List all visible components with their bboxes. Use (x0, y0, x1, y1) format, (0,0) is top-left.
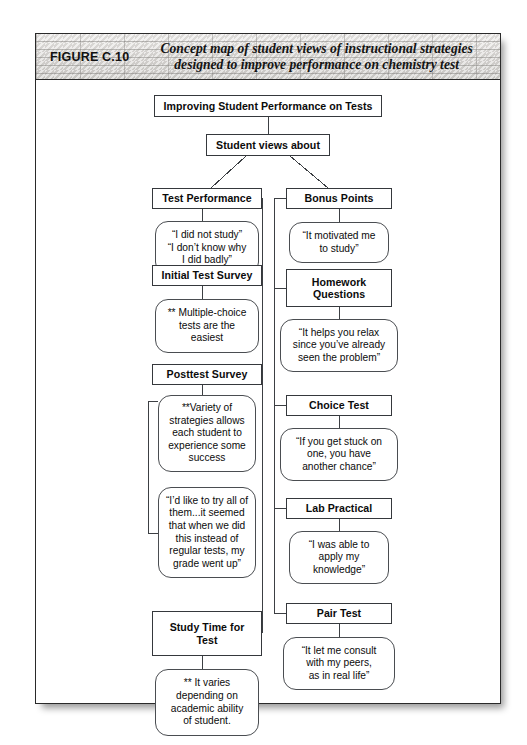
node-pair-test[interactable]: Pair Test (286, 603, 392, 624)
figure-caption-line-2: designed to improve performance on chemi… (143, 57, 490, 73)
quote-pair-test[interactable]: “It let me consult with my peers, as in … (283, 637, 395, 690)
connector-lines (36, 81, 500, 703)
quote-line: strategies allows (169, 415, 244, 428)
quote-line: to study” (319, 243, 358, 256)
quote-line: “I was able to (309, 539, 370, 552)
node-root-label: Improving Student Performance on Tests (160, 100, 377, 113)
node-test-performance[interactable]: Test Performance (152, 188, 262, 209)
quote-initial-test-survey[interactable]: ** Multiple-choice tests are the easiest (155, 299, 259, 353)
quote-line: experience some (168, 440, 246, 453)
quote-line: ** It varies (184, 677, 230, 690)
node-bonus-points[interactable]: Bonus Points (286, 188, 392, 209)
quote-line: with my peers, (306, 657, 372, 670)
node-pair-test-label: Pair Test (313, 607, 365, 620)
quote-line: “It helps you relax (299, 327, 379, 340)
quote-line: “If you get stuck on (296, 436, 382, 449)
quote-line: of student. (183, 715, 231, 728)
quote-line: one, you have (307, 448, 371, 461)
node-posttest-survey[interactable]: Posttest Survey (152, 364, 262, 385)
quote-line: grade went up” (173, 558, 241, 571)
quote-line: depending on (176, 690, 238, 703)
quote-posttest-survey-2[interactable]: “I’d like to try all of them...it seemed… (158, 487, 256, 578)
quote-line: success (189, 452, 226, 465)
node-homework-questions-label-2: Questions (313, 288, 365, 301)
node-choice-test-label: Choice Test (305, 399, 373, 412)
quote-line: that when we did (169, 520, 245, 533)
quote-line: “It motivated me (302, 230, 375, 243)
quote-line: seen the problem” (298, 352, 380, 365)
quote-line: each student to (172, 427, 242, 440)
node-lab-practical-label: Lab Practical (302, 502, 377, 515)
quote-choice-test[interactable]: “If you get stuck on one, you have anoth… (280, 428, 398, 481)
node-choice-test[interactable]: Choice Test (286, 395, 392, 416)
figure-caption: Concept map of student views of instruct… (143, 41, 500, 73)
quote-line: academic ability (171, 703, 243, 716)
quote-bonus-points[interactable]: “It motivated me to study” (289, 222, 389, 263)
quote-line: “It let me consult (302, 645, 377, 658)
figure-label: FIGURE C.10 (50, 49, 129, 64)
node-test-performance-label: Test Performance (158, 192, 256, 205)
node-initial-test-survey-label: Initial Test Survey (158, 269, 257, 282)
quote-line: “I’d like to try all of (166, 495, 248, 508)
quote-line: ** Multiple-choice (168, 307, 247, 320)
node-hub[interactable]: Student views about (206, 134, 330, 156)
concept-map-canvas: Improving Student Performance on Tests S… (36, 81, 500, 703)
quote-study-time[interactable]: ** It varies depending on academic abili… (155, 669, 259, 736)
quote-line: since you’ve already (293, 339, 385, 352)
quote-line: easiest (191, 332, 223, 345)
quote-posttest-survey-1[interactable]: **Variety of strategies allows each stud… (158, 395, 256, 472)
quote-line: another chance” (302, 461, 376, 474)
quote-line: tests are the (179, 320, 235, 333)
quote-line: this instead of (176, 533, 239, 546)
figure-header: FIGURE C.10 Concept map of student views… (35, 33, 501, 80)
quote-homework-questions[interactable]: “It helps you relax since you’ve already… (280, 319, 398, 372)
node-study-time-for-test-label-2: Test (196, 634, 217, 647)
quote-line: them...it seemed (169, 507, 244, 520)
quote-line: apply my (319, 551, 360, 564)
node-root[interactable]: Improving Student Performance on Tests (154, 95, 382, 117)
node-hub-label: Student views about (212, 139, 324, 152)
quote-line: “I did not study” (172, 229, 242, 242)
quote-line: knowledge” (313, 564, 365, 577)
quote-lab-practical[interactable]: “I was able to apply my knowledge” (289, 531, 389, 584)
node-posttest-survey-label: Posttest Survey (163, 368, 252, 381)
node-homework-questions[interactable]: Homework Questions (286, 269, 392, 307)
node-initial-test-survey[interactable]: Initial Test Survey (152, 265, 262, 286)
quote-line: as in real life” (309, 670, 370, 683)
node-study-time-for-test-label: Study Time for (170, 621, 245, 634)
node-lab-practical[interactable]: Lab Practical (286, 498, 392, 519)
node-study-time-for-test[interactable]: Study Time for Test (152, 611, 262, 656)
quote-line: regular tests, my (169, 545, 244, 558)
quote-line: **Variety of (182, 402, 232, 415)
node-homework-questions-label: Homework (312, 276, 367, 289)
node-bonus-points-label: Bonus Points (301, 192, 378, 205)
quote-line: “I don’t know why (168, 242, 247, 255)
figure-caption-line-1: Concept map of student views of instruct… (143, 41, 490, 57)
figure-container: FIGURE C.10 Concept map of student views… (35, 33, 501, 704)
